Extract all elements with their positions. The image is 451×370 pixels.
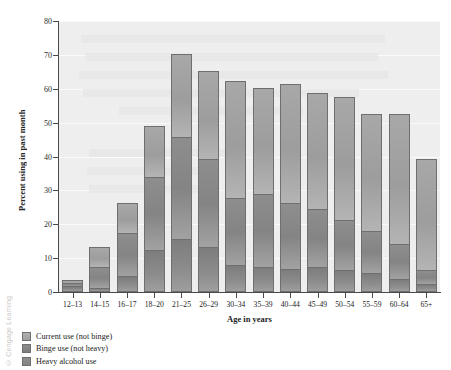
gridline [59,123,440,124]
segment-current-use [334,97,355,221]
y-tick-mark [53,21,58,22]
y-tick-label: 80 [30,17,52,26]
y-tick-label: 20 [30,220,52,229]
x-tick-label: 30–34 [226,300,245,309]
y-tick-label: 40 [30,152,52,161]
x-tick-label: 50–54 [335,300,354,309]
x-tick-mark [181,293,182,298]
ghost-text-line [85,53,403,61]
x-tick-label: 35–39 [254,300,273,309]
segment-binge-use [171,137,192,240]
y-tick-label: 50 [30,118,52,127]
x-tick-label: 55–59 [362,300,381,309]
segment-heavy-use [307,267,328,292]
bar-4 [144,127,165,292]
copyright-credit: © Cengage Learning [2,296,16,366]
bar-7 [225,82,246,292]
segment-binge-use [280,203,301,270]
bar-14 [416,160,437,292]
bar-6 [198,72,219,292]
bar-1 [62,281,83,292]
segment-heavy-use [334,270,355,292]
y-tick-label: 70 [30,50,52,59]
segment-binge-use [307,209,328,268]
segment-current-use [198,71,219,160]
segment-binge-use [416,270,437,286]
segment-binge-use [225,198,246,266]
y-tick-mark [53,224,58,225]
segment-current-use [89,247,110,268]
x-tick-mark [345,293,346,298]
segment-current-use [280,84,301,204]
segment-heavy-use [198,247,219,292]
bar-3 [117,204,138,292]
x-tick-mark [100,293,101,298]
legend-swatch [22,357,31,366]
y-tick-label: 60 [30,84,52,93]
legend-item-1: Current use (not binge) [22,330,112,343]
bar-5 [171,55,192,292]
bar-10 [307,94,328,293]
segment-heavy-use [225,265,246,292]
segment-binge-use [144,177,165,252]
segment-current-use [389,114,410,244]
x-tick-mark [154,293,155,298]
segment-current-use [307,93,328,211]
segment-binge-use [117,233,138,277]
bar-2 [89,248,110,292]
segment-binge-use [89,267,110,288]
x-axis-title: Age in years [59,314,440,324]
segment-binge-use [198,159,219,248]
x-tick-label: 26–29 [199,300,218,309]
segment-current-use [361,114,382,232]
x-tick-mark [426,293,427,298]
segment-binge-use [361,231,382,274]
x-tick-mark [372,293,373,298]
y-tick-mark [53,55,58,56]
x-tick-mark [263,293,264,298]
x-tick-label: 18–20 [145,300,164,309]
segment-current-use [225,81,246,199]
y-tick-label: 10 [30,254,52,263]
segment-current-use [117,203,138,234]
legend-label: Binge use (not heavy) [36,344,108,353]
y-axis-ticks [0,0,51,271]
y-tick-mark [53,292,58,293]
segment-binge-use [253,194,274,268]
x-tick-mark [209,293,210,298]
segment-heavy-use [171,239,192,293]
y-tick-mark [53,190,58,191]
legend-label: Current use (not binge) [36,332,112,341]
y-tick-mark [53,89,58,90]
segment-binge-use [334,220,355,271]
segment-current-use [253,88,274,195]
x-tick-mark [290,293,291,298]
x-tick-mark [127,293,128,298]
x-tick-mark [73,293,74,298]
x-tick-label: 14–15 [90,300,109,309]
legend-swatch [22,332,31,341]
segment-binge-use [389,244,410,281]
x-axis-line [58,292,441,293]
y-tick-mark [53,157,58,158]
bar-8 [253,89,274,292]
plot-area [59,21,440,292]
gridline [59,21,440,22]
legend-item-3: Heavy alcohol use [22,355,112,368]
segment-heavy-use [389,279,410,292]
bar-12 [361,115,382,292]
x-tick-mark [318,293,319,298]
x-tick-label: 45–49 [308,300,327,309]
ghost-text-line [81,35,411,43]
chart-figure: © Cengage Learning Percent using in past… [0,0,451,370]
bar-11 [334,98,355,292]
segment-heavy-use [280,269,301,292]
x-tick-mark [236,293,237,298]
x-tick-label: 12–13 [63,300,82,309]
segment-current-use [144,126,165,177]
bar-13 [389,115,410,292]
y-tick-mark [53,123,58,124]
legend-swatch [22,344,31,353]
y-tick-label: 30 [30,186,52,195]
y-axis-line [58,21,59,293]
